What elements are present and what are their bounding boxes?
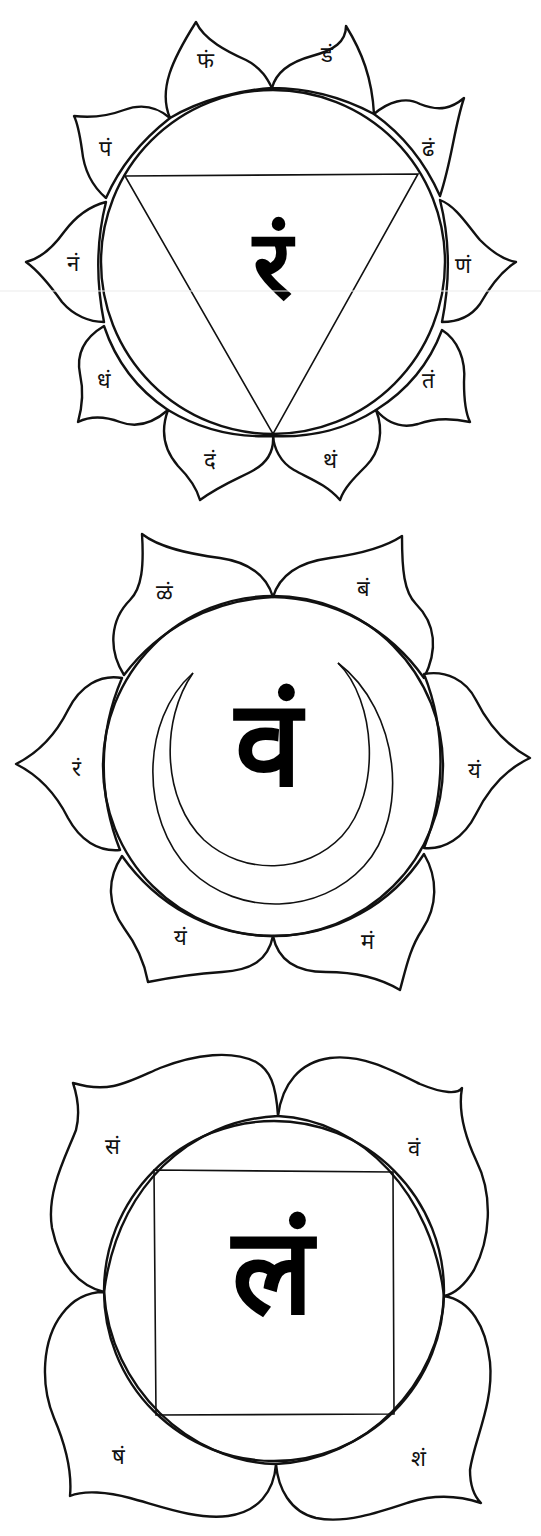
svadhisthana-petal-letter: ळं bbox=[156, 580, 174, 605]
manipura-petal-letter: धं bbox=[97, 368, 111, 393]
petal-top-right bbox=[273, 536, 433, 678]
petal-bottom-right bbox=[273, 854, 434, 990]
petal-top-right bbox=[272, 26, 374, 114]
manipura-petal-letter: ढं bbox=[422, 136, 435, 161]
svadhisthana-chakra: बं यं मं यं रं ळं वं bbox=[16, 534, 530, 990]
muladhara-petal-letter: सं bbox=[105, 1134, 121, 1159]
svadhisthana-bija-mantra: वं bbox=[233, 674, 306, 813]
chakra-diagrams-canvas: डं ढं णं तं थं दं धं नं पं फं रं bbox=[0, 0, 541, 1536]
petal-upper-left bbox=[74, 107, 170, 198]
petal-top-left bbox=[113, 534, 273, 675]
manipura-bija-mantra: रं bbox=[251, 209, 296, 321]
muladhara-petal-letter: शं bbox=[411, 1446, 427, 1471]
manipura-petal-letter: पं bbox=[99, 136, 112, 161]
petal-bottom-left bbox=[164, 410, 273, 500]
svadhisthana-petal-letter: यं bbox=[468, 758, 482, 783]
petal-lower-left bbox=[78, 326, 168, 425]
svadhisthana-petal-letter: यं bbox=[174, 925, 188, 950]
muladhara-petal-letter: वं bbox=[408, 1136, 421, 1161]
manipura-chakra: डं ढं णं तं थं दं धं नं पं फं रं bbox=[26, 22, 516, 500]
petal-left bbox=[16, 677, 122, 850]
petal-right bbox=[440, 200, 516, 322]
muladhara-chakra: वं शं षं सं लं bbox=[45, 1055, 491, 1520]
manipura-petal-letter: फं bbox=[197, 48, 215, 73]
svadhisthana-petal-letter: मं bbox=[361, 929, 375, 954]
manipura-petal-letter: दं bbox=[204, 448, 216, 473]
petal-top-left bbox=[166, 22, 272, 118]
manipura-petal-letter: तं bbox=[422, 368, 435, 393]
manipura-petal-letter: डं bbox=[320, 42, 333, 67]
manipura-petal-letter: थं bbox=[323, 448, 338, 473]
petal-upper-right bbox=[374, 98, 464, 196]
muladhara-bija-mantra: लं bbox=[230, 1202, 317, 1341]
svadhisthana-petal-letter: बं bbox=[357, 576, 370, 601]
muladhara-petal-letter: षं bbox=[112, 1444, 126, 1469]
svadhisthana-petal-letter: रं bbox=[72, 756, 82, 781]
petal-bottom-left bbox=[111, 856, 273, 982]
manipura-petal-letter: णं bbox=[455, 253, 472, 278]
manipura-petal-letter: नं bbox=[67, 251, 80, 276]
petal-left bbox=[26, 202, 106, 322]
